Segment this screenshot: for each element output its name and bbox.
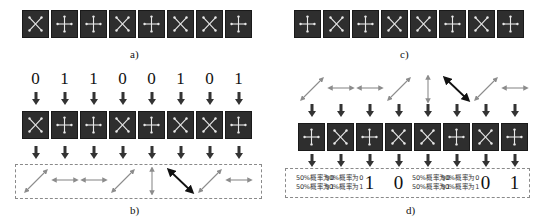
panel-d-basis-rectilinear (501, 123, 528, 151)
panel-a-basis-rectilinear (51, 10, 78, 38)
down-arrow-icon (385, 104, 412, 117)
panel-a-basis-rectilinear (138, 10, 165, 38)
panel-d-basis-rectilinear (356, 123, 383, 151)
panel-d-arrows-top (298, 104, 530, 117)
panel-c-basis-diagonal (381, 10, 408, 38)
panel-c-basis-diagonal (323, 10, 350, 38)
down-arrow-icon (167, 146, 194, 159)
panel-a-caption: a) (130, 48, 139, 60)
random-result: 50%概率为050%概率为1 (414, 170, 441, 196)
panel-c-basis-diagonal (468, 10, 495, 38)
panel-b-basis-rectilinear (138, 111, 165, 139)
panel-b-bits: 01100101 (22, 70, 254, 87)
panel-b-basis-rectilinear (80, 111, 107, 139)
down-arrow-icon (167, 92, 194, 105)
panel-c-basis-rectilinear (439, 10, 466, 38)
polarization-diag45-icon (298, 75, 325, 103)
panel-b-caption: b) (130, 204, 139, 216)
panel-a-basis-rectilinear (80, 10, 107, 38)
random-result: 50%概率为050%概率为1 (298, 170, 325, 196)
down-arrow-icon (472, 104, 499, 117)
panel-b-bases (22, 111, 254, 139)
down-arrow-icon (414, 104, 441, 117)
panel-d-caption: d) (406, 204, 415, 216)
polarization-vertical-icon (138, 167, 165, 195)
down-arrow-icon (196, 92, 223, 105)
down-arrow-icon (298, 104, 325, 117)
bit-value: 1 (167, 70, 194, 87)
bit-value: 0 (109, 70, 136, 87)
panel-b-basis-diagonal (196, 111, 223, 139)
polarization-horizontal-icon (327, 75, 354, 103)
panel-d-arrows-bottom (298, 154, 530, 167)
panel-d-basis-diagonal (327, 123, 354, 151)
down-arrow-icon (225, 146, 252, 159)
down-arrow-icon (501, 154, 528, 167)
bit-value: 0 (138, 70, 165, 87)
down-arrow-icon (385, 154, 412, 167)
panel-a-basis-rectilinear (225, 10, 252, 38)
bit-value: 0 (196, 70, 223, 87)
panel-c-basis-rectilinear (352, 10, 379, 38)
polarization-horizontal-icon (80, 167, 107, 195)
panel-b-basis-diagonal (22, 111, 49, 139)
down-arrow-icon (414, 154, 441, 167)
down-arrow-icon (501, 104, 528, 117)
down-arrow-icon (80, 146, 107, 159)
down-arrow-icon (356, 154, 383, 167)
down-arrow-icon (109, 92, 136, 105)
down-arrow-icon (109, 146, 136, 159)
panel-b-basis-rectilinear (225, 111, 252, 139)
polarization-horizontal-icon (225, 167, 252, 195)
panel-d-basis-rectilinear (443, 123, 470, 151)
panel-b-arrows-top (22, 92, 254, 105)
polarization-diag45-icon (385, 75, 412, 103)
down-arrow-icon (80, 92, 107, 105)
panel-b-basis-diagonal (167, 111, 194, 139)
panel-b-basis-rectilinear (51, 111, 78, 139)
panel-c-basis-rectilinear (497, 10, 524, 38)
random-result: 50%概率为050%概率为1 (443, 170, 470, 196)
bit-value: 1 (80, 70, 107, 87)
down-arrow-icon (327, 154, 354, 167)
panel-c-basis-rectilinear (294, 10, 321, 38)
bit-value: 0 (22, 70, 49, 87)
panel-d-bases (298, 123, 530, 151)
bit-value: 1 (225, 70, 252, 87)
panel-d-basis-diagonal (385, 123, 412, 151)
panel-a-basis-diagonal (196, 10, 223, 38)
panel-d-polarizations (298, 75, 530, 103)
panel-c-caption: c) (400, 48, 409, 60)
polarization-horizontal-icon (501, 75, 528, 103)
polarization-horizontal-icon (51, 167, 78, 195)
measured-bit: 1 (356, 170, 383, 196)
panel-c-basis-diagonal (410, 10, 437, 38)
down-arrow-icon (51, 92, 78, 105)
panel-a-basis-diagonal (22, 10, 49, 38)
panel-d-basis-diagonal (472, 123, 499, 151)
measured-bit-value: 0 (481, 172, 491, 193)
panel-a-basis-diagonal (109, 10, 136, 38)
measured-bit: 0 (385, 170, 412, 196)
panel-d-basis-rectilinear (298, 123, 325, 151)
measured-bit-value: 1 (365, 172, 375, 193)
polarization-vertical-icon (414, 75, 441, 103)
polarization-diag45-icon (196, 167, 223, 195)
down-arrow-icon (138, 146, 165, 159)
down-arrow-icon (298, 154, 325, 167)
down-arrow-icon (22, 92, 49, 105)
panel-b-polarizations (22, 167, 254, 195)
panel-d-basis-diagonal (414, 123, 441, 151)
down-arrow-icon (443, 154, 470, 167)
polarization-diag45-icon (109, 167, 136, 195)
polarization-diag45-icon (22, 167, 49, 195)
panel-d-results: 50%概率为050%概率为150%概率为050%概率为11050%概率为050%… (298, 170, 530, 196)
polarization-diag45-icon (472, 75, 499, 103)
down-arrow-icon (225, 92, 252, 105)
down-arrow-icon (327, 104, 354, 117)
down-arrow-icon (356, 104, 383, 117)
panel-c-bases (294, 10, 526, 38)
measured-bit-value: 1 (510, 172, 520, 193)
random-result: 50%概率为050%概率为1 (327, 170, 354, 196)
down-arrow-icon (196, 146, 223, 159)
